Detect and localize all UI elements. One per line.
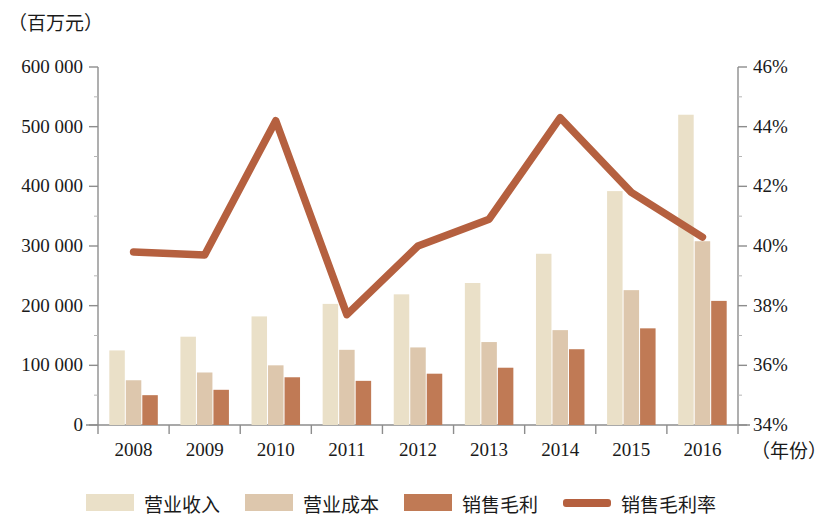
legend-swatch [86, 494, 134, 511]
legend-item-label: 营业收入 [144, 495, 220, 516]
y-axis-unit-label: （百万元） [8, 8, 103, 35]
left-axis-tick-label: 400 000 [21, 175, 83, 196]
legend: 营业收入营业成本销售毛利销售毛利率 [86, 494, 716, 516]
bar [126, 380, 142, 425]
x-axis-tick-label: 2008 [115, 439, 153, 460]
bar [695, 241, 711, 425]
bar [268, 365, 284, 425]
legend-line-marker [563, 499, 611, 507]
bar-group [323, 304, 372, 425]
bar-group [109, 350, 158, 425]
chart-canvas: 0100 000200 000300 000400 000500 000600 … [0, 0, 833, 521]
bar [109, 350, 125, 425]
bar-group [607, 191, 656, 425]
bar [339, 350, 355, 425]
x-axis-tick-label: 2012 [399, 439, 437, 460]
bar [285, 377, 301, 425]
bar [252, 316, 268, 425]
bar [180, 337, 196, 425]
bar [394, 294, 410, 425]
bar [624, 290, 640, 425]
legend-item-label: 销售毛利率 [621, 495, 716, 516]
gross-profit-chart: （百万元） 0100 000200 000300 000400 000500 0… [0, 0, 833, 521]
bar [569, 349, 585, 425]
right-axis-tick-label: 38% [753, 295, 788, 316]
legend-swatch [245, 494, 293, 511]
left-axis-tick-label: 0 [74, 414, 84, 435]
left-axis-tick-label: 600 000 [21, 56, 83, 77]
bar-group [394, 294, 443, 425]
left-axis-tick-label: 500 000 [21, 116, 83, 137]
left-axis-tick-label: 200 000 [21, 295, 83, 316]
bar [465, 283, 481, 425]
legend-item-label: 营业成本 [303, 495, 379, 516]
left-axis-tick-label: 300 000 [21, 235, 83, 256]
bar-group [678, 115, 727, 425]
bar [536, 254, 552, 425]
bar-group [252, 316, 301, 425]
bar [213, 390, 229, 425]
x-axis-tick-label: 2009 [186, 439, 224, 460]
right-axis-tick-label: 40% [753, 235, 788, 256]
x-axis-tick-label: 2015 [612, 439, 650, 460]
bar [197, 372, 213, 425]
left-axis-tick-label: 100 000 [21, 354, 83, 375]
bar [481, 342, 497, 425]
x-axis-tick-label: 2014 [541, 439, 580, 460]
right-axis-tick-label: 46% [753, 56, 788, 77]
bar [142, 395, 158, 425]
bar [356, 381, 372, 425]
bar-group [465, 283, 514, 425]
bar [410, 347, 426, 425]
x-axis-tick-label: 2016 [683, 439, 721, 460]
bar [323, 304, 339, 425]
x-axis-tick-label: 2013 [470, 439, 508, 460]
bars-layer [109, 115, 726, 425]
right-axis-tick-label: 42% [753, 175, 788, 196]
x-axis-tick-label: 2011 [328, 439, 365, 460]
right-axis-tick-label: 36% [753, 354, 788, 375]
bar [711, 301, 727, 425]
x-axis-tick-label: 2010 [257, 439, 295, 460]
right-axis-tick-label: 34% [753, 414, 788, 435]
bar [427, 374, 443, 425]
legend-swatch [404, 494, 452, 511]
x-axis-title: （年份） [751, 441, 827, 462]
bar-group [536, 254, 585, 425]
bar [678, 115, 694, 425]
bar [498, 368, 514, 425]
legend-item-label: 销售毛利 [462, 495, 538, 516]
bar [640, 328, 656, 425]
bar [607, 191, 623, 425]
bar-group [180, 337, 229, 425]
right-axis-tick-label: 44% [753, 116, 788, 137]
bar [552, 330, 568, 425]
